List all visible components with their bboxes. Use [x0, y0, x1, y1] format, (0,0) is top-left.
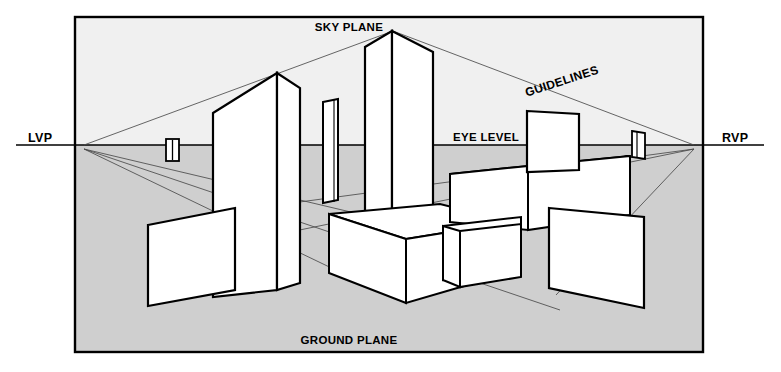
perspective-diagram: SKY PLANE GROUND PLANE EYE LEVEL GUIDELI… [0, 0, 781, 372]
diagram-stage: SKY PLANE GROUND PLANE EYE LEVEL GUIDELI… [0, 0, 781, 372]
marker-pane-right [632, 131, 645, 159]
form-left-panel [148, 208, 235, 306]
form-thin-slab-left [323, 99, 338, 203]
label-eye-level: EYE LEVEL [453, 131, 519, 143]
marker-double-pane-left [166, 139, 179, 161]
form-right-small-box [443, 217, 521, 287]
label-ground-plane: GROUND PLANE [301, 334, 398, 346]
label-left-vanishing-point: LVP [28, 131, 52, 145]
form-right-upright-panel [527, 111, 579, 172]
label-sky-plane: SKY PLANE [315, 21, 383, 33]
label-right-vanishing-point: RVP [722, 131, 748, 145]
